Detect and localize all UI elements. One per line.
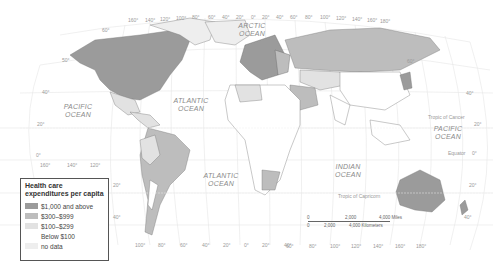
tropic-of-cancer-label: Tropic of Cancer [428, 114, 465, 120]
lon-tick: 40° [222, 15, 230, 20]
lon-tick: 20° [262, 15, 270, 20]
asia [285, 28, 440, 145]
lat-tick: 20° [469, 183, 477, 188]
lon-tick: 60° [286, 244, 294, 249]
lat-tick: 60° [102, 28, 110, 33]
scale-miles-4000: 4,000 Miles [379, 215, 402, 220]
scale-km-0: 0 [307, 223, 310, 228]
lon-tick: 20° [236, 15, 244, 20]
scale-km-4000: 4,000 Kilometers [349, 223, 383, 228]
lon-tick: 100° [176, 16, 186, 21]
lon-tick: 140° [373, 244, 383, 249]
lon-tick: 140° [145, 18, 155, 23]
legend-label: $100–$299 [41, 223, 74, 230]
lon-tick: 160° [367, 18, 377, 23]
lon-tick: 60° [180, 243, 188, 248]
lon-tick: 120° [336, 16, 346, 21]
lon-tick: 100° [330, 244, 340, 249]
ocean-label-indian: INDIAN OCEAN [328, 163, 368, 178]
lon-tick: 0° [244, 243, 249, 248]
legend-item: $1,000 and above [25, 201, 104, 211]
lon-tick: 120° [351, 244, 361, 249]
lon-tick: 120° [90, 163, 100, 168]
lat-tick: 50° [62, 58, 70, 63]
ocean-label-arctic: ARCTIC OCEAN [232, 22, 272, 37]
ocean-label-atlantic-south: ATLANTIC OCEAN [200, 172, 242, 187]
pacific-ocean-east-text: PACIFIC OCEAN [434, 125, 463, 140]
lat-tick: 40° [113, 215, 121, 220]
scale-bar: 0 2,000 4,000 Miles 0 2,000 4,000 Kilome… [307, 215, 417, 233]
scale-miles-0: 0 [307, 215, 310, 220]
ocean-label-pacific-west: PACIFIC OCEAN [58, 103, 98, 118]
lon-tick: 100° [320, 15, 330, 20]
legend-swatch [25, 243, 38, 249]
lat-tick: 0° [36, 153, 41, 158]
lon-tick: 160° [128, 18, 138, 23]
lon-tick: 20° [262, 243, 270, 248]
ocean-label-atlantic-north: ATLANTIC OCEAN [170, 97, 212, 112]
lon-tick: 40° [276, 15, 284, 20]
lat-tick: 0° [472, 151, 477, 156]
lat-tick: 40° [464, 215, 472, 220]
lon-tick: 20° [223, 243, 231, 248]
legend-label: $300–$999 [41, 213, 74, 220]
lon-tick: 160° [395, 244, 405, 249]
atlantic-ocean-south-text: ATLANTIC OCEAN [204, 172, 239, 187]
arctic-ocean-text: ARCTIC OCEAN [238, 22, 265, 37]
lon-tick: 140° [67, 163, 77, 168]
pacific-ocean-west-text: PACIFIC OCEAN [64, 103, 93, 118]
ocean-label-pacific-east: PACIFIC OCEAN [428, 125, 468, 140]
legend-label: no data [41, 243, 63, 250]
legend-label: $1,000 and above [41, 203, 93, 210]
lon-tick: 80° [305, 15, 313, 20]
scale-line [308, 221, 390, 222]
legend-item: no data [25, 241, 104, 251]
scale-miles-2000: 2,000 [345, 215, 356, 220]
legend-item: $100–$299 [25, 221, 104, 231]
lat-tick: 40° [466, 91, 474, 96]
atlantic-ocean-north-text: ATLANTIC OCEAN [174, 97, 209, 112]
lon-tick: 60° [208, 15, 216, 20]
legend-title: Health care expenditures per capita [25, 182, 104, 198]
lon-tick: 80° [158, 243, 166, 248]
legend-swatch [25, 203, 38, 209]
lat-tick: 20° [113, 183, 121, 188]
legend: Health care expenditures per capita $1,0… [20, 178, 109, 261]
lon-tick: 0° [251, 15, 256, 20]
lon-tick: 80° [192, 15, 200, 20]
lat-tick: 60° [407, 59, 415, 64]
scale-km-2000: 2,000 [324, 223, 335, 228]
legend-label: Below $100 [41, 233, 75, 240]
lon-tick: 180° [380, 19, 390, 24]
tropic-of-capricorn-label: Tropic of Capricorn [338, 193, 380, 199]
indian-ocean-text: INDIAN OCEAN [335, 163, 361, 178]
lon-tick: 180° [416, 244, 426, 249]
lon-tick: 100° [135, 243, 145, 248]
lon-tick: 40° [202, 243, 210, 248]
lon-tick: 140° [352, 17, 362, 22]
lon-tick: 160° [40, 163, 50, 168]
lat-tick: 40° [42, 90, 50, 95]
lon-tick: 120° [160, 17, 170, 22]
lon-tick: 60° [290, 15, 298, 20]
lat-tick: 20° [474, 122, 482, 127]
south-america [140, 128, 190, 235]
lat-tick: 20° [37, 122, 45, 127]
legend-item: $300–$999 [25, 211, 104, 221]
australia [396, 170, 468, 215]
equator-label: Equator [448, 150, 466, 156]
legend-swatch [25, 213, 38, 219]
legend-swatch [25, 223, 38, 229]
europe [240, 35, 290, 80]
legend-item: Below $100 [25, 231, 104, 241]
lon-tick: 80° [309, 244, 317, 249]
legend-swatch [25, 233, 38, 239]
